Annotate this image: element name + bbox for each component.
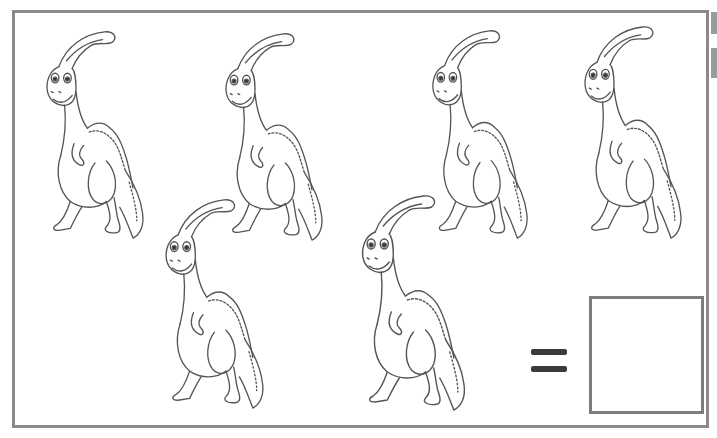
dinosaur-icon [576, 23, 690, 240]
equals-bar-top [531, 349, 567, 355]
dinosaur-icon [38, 28, 152, 240]
dinosaur-icon [157, 196, 272, 410]
answer-box[interactable] [589, 296, 704, 414]
worksheet-frame-right-edge [706, 10, 709, 428]
dinosaur-icon [353, 192, 474, 412]
equals-bar-bottom [531, 366, 567, 372]
equals-sign: = [531, 349, 567, 373]
page-edge-gap [711, 34, 717, 48]
